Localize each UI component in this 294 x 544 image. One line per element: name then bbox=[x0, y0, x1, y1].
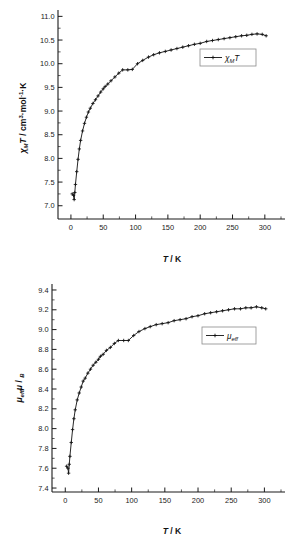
x-tick-label: 50 bbox=[99, 223, 107, 232]
y-tick-label: 9.2 bbox=[38, 305, 48, 314]
x-tick-label: 250 bbox=[225, 496, 237, 505]
legend-chi-m-t[interactable]: χMT bbox=[200, 49, 256, 66]
data-point-marker bbox=[261, 33, 264, 36]
data-point-marker bbox=[76, 158, 79, 161]
data-point-marker bbox=[255, 305, 258, 308]
data-point-marker bbox=[187, 44, 190, 47]
y-tick-label: 9.5 bbox=[44, 83, 54, 92]
data-point-marker bbox=[217, 38, 220, 41]
data-point-marker bbox=[196, 314, 199, 317]
data-point-marker bbox=[89, 107, 92, 110]
data-point-marker bbox=[80, 385, 83, 388]
data-point-marker bbox=[227, 308, 230, 311]
data-point-marker bbox=[158, 51, 161, 54]
data-point-marker bbox=[83, 122, 86, 125]
data-point-marker bbox=[249, 306, 252, 309]
data-point-marker bbox=[72, 198, 75, 201]
data-point-marker bbox=[190, 315, 193, 318]
y-tick-label: 8.6 bbox=[38, 365, 48, 374]
data-point-marker bbox=[143, 327, 146, 330]
y-tick-label: 8.4 bbox=[38, 385, 48, 394]
data-point-marker bbox=[76, 398, 79, 401]
y-tick-label: 9.4 bbox=[38, 286, 48, 295]
data-point-marker bbox=[228, 36, 231, 39]
data-point-marker bbox=[67, 471, 70, 474]
data-point-marker bbox=[234, 35, 237, 38]
x-tick-label: 150 bbox=[162, 223, 174, 232]
data-point-marker bbox=[233, 307, 236, 310]
x-tick-label: 300 bbox=[259, 223, 271, 232]
x-tick-label: 100 bbox=[129, 223, 141, 232]
data-point-marker bbox=[205, 40, 208, 43]
x-tick-label: 250 bbox=[226, 223, 238, 232]
chart-panel-chi-m-t: 0501001502002503007.07.58.08.59.09.510.0… bbox=[0, 0, 294, 272]
data-point-marker bbox=[250, 33, 253, 36]
data-point-marker bbox=[264, 34, 267, 37]
y-axis-title-bot: μeffμ / B bbox=[14, 373, 25, 404]
data-point-marker bbox=[245, 34, 248, 37]
y-tick-label: 8.0 bbox=[38, 424, 48, 433]
data-point-marker bbox=[85, 116, 88, 119]
data-point-marker bbox=[175, 47, 178, 50]
data-point-marker bbox=[222, 37, 225, 40]
data-point-marker bbox=[193, 43, 196, 46]
data-point-marker bbox=[79, 139, 82, 142]
y-tick-label: 10.5 bbox=[40, 36, 54, 45]
y-axis-title-top: χMT / cm3·mol-1·K bbox=[18, 82, 29, 155]
data-point-marker bbox=[240, 34, 243, 37]
data-point-marker bbox=[184, 317, 187, 320]
axes-group-bot: 0501001502002503007.47.67.88.08.28.48.68… bbox=[38, 284, 285, 505]
y-tick-label: 9.0 bbox=[38, 325, 48, 334]
data-point-marker bbox=[78, 391, 81, 394]
data-point-marker bbox=[209, 311, 212, 314]
y-tick-label: 8.0 bbox=[44, 154, 54, 163]
y-tick-label: 7.4 bbox=[38, 484, 48, 493]
x-axis-title-top: T / K bbox=[163, 254, 182, 264]
y-tick-label: 7.6 bbox=[38, 464, 48, 473]
mu-eff-plot: 0501001502002503007.47.67.88.08.28.48.68… bbox=[0, 266, 294, 544]
data-point-marker bbox=[244, 306, 247, 309]
data-point-marker bbox=[70, 441, 73, 444]
data-point-marker bbox=[260, 306, 263, 309]
data-point-marker bbox=[155, 323, 158, 326]
y-tick-label: 7.5 bbox=[44, 178, 54, 187]
data-point-marker bbox=[172, 319, 175, 322]
chi-m-t-plot: 0501001502002503007.07.58.08.59.09.510.0… bbox=[0, 0, 294, 272]
x-tick-label: 50 bbox=[94, 496, 102, 505]
y-tick-label: 8.8 bbox=[38, 345, 48, 354]
data-point-marker bbox=[166, 321, 169, 324]
legend-mu-eff[interactable]: μeff bbox=[202, 327, 256, 344]
axes-group-top: 0501001502002503007.07.58.08.59.09.510.0… bbox=[40, 10, 285, 232]
data-point-marker bbox=[221, 309, 224, 312]
data-point-marker bbox=[178, 318, 181, 321]
y-tick-label: 11.0 bbox=[41, 12, 55, 21]
data-point-marker bbox=[169, 48, 172, 51]
data-point-marker bbox=[68, 463, 71, 466]
x-tick-label: 200 bbox=[192, 496, 204, 505]
y-tick-label: 9.0 bbox=[44, 107, 54, 116]
x-tick-label: 300 bbox=[258, 496, 270, 505]
data-point-marker bbox=[74, 408, 77, 411]
data-point-marker bbox=[87, 110, 90, 113]
data-point-marker bbox=[149, 325, 152, 328]
data-point-marker bbox=[72, 417, 75, 420]
chart-panel-mu-eff: 0501001502002503007.47.67.88.08.28.48.68… bbox=[0, 266, 294, 544]
data-point-marker bbox=[215, 310, 218, 313]
data-point-marker bbox=[74, 183, 77, 186]
data-point-marker bbox=[152, 53, 155, 56]
data-point-marker bbox=[126, 68, 129, 71]
data-point-marker bbox=[122, 339, 125, 342]
y-tick-label: 7.0 bbox=[44, 201, 54, 210]
data-point-marker bbox=[81, 129, 84, 132]
data-point-marker bbox=[78, 147, 81, 150]
x-tick-label: 0 bbox=[63, 496, 67, 505]
data-point-marker bbox=[68, 455, 71, 458]
magnetic-susceptibility-figure: 0501001502002503007.07.58.08.59.09.510.0… bbox=[0, 0, 294, 544]
data-point-marker bbox=[203, 312, 206, 315]
data-point-marker bbox=[199, 42, 202, 45]
data-point-marker bbox=[239, 307, 242, 310]
data-point-marker bbox=[75, 170, 78, 173]
data-point-marker bbox=[71, 428, 74, 431]
x-tick-label: 100 bbox=[125, 496, 137, 505]
x-tick-label: 200 bbox=[194, 223, 206, 232]
